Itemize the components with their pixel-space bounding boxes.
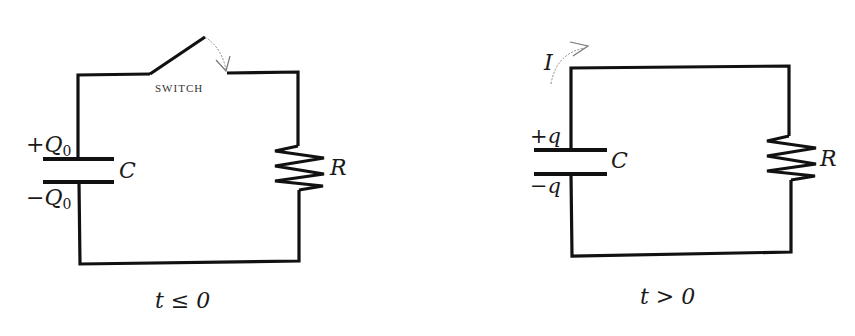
left-top-wire [78,74,150,159]
right-top-wire [227,72,298,146]
right-circuit: I +q −q C R t > 0 [530,42,837,309]
bottom-plate-charge-label: −Q0 [26,185,71,212]
resistor-right [767,136,816,180]
circuit-loop-top [571,66,789,150]
resistor-label-right: R [819,146,837,171]
resistor-left [275,146,324,190]
capacitor-label: C [119,158,136,183]
switch-label: SWITCH [155,82,203,94]
switch-blade [150,37,205,74]
left-circuit: SWITCH +Q0 −Q0 C R t ≤ 0 [26,37,347,313]
current-arrow-path [551,48,584,84]
caption-t-le-0: t ≤ 0 [155,288,210,313]
top-plate-charge-label-right: +q [530,124,561,148]
bottom-plate-charge-label-right: −q [530,174,561,198]
bottom-wire [79,182,299,264]
current-label: I [543,50,554,75]
switch-motion-arc [205,37,226,70]
resistor-label: R [329,155,347,180]
circuit-loop-bottom [571,174,791,256]
rc-circuit-diagram: SWITCH +Q0 −Q0 C R t ≤ 0 I +q −q C R t >… [0,0,855,336]
caption-t-gt-0: t > 0 [640,284,695,309]
capacitor-label-right: C [611,148,628,173]
top-plate-charge-label: +Q0 [26,132,71,159]
